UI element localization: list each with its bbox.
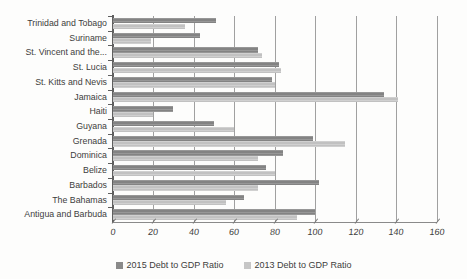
gridline-100 <box>315 16 316 222</box>
category-label: St. Lucia <box>0 60 107 75</box>
bar-2015-11 <box>113 180 320 185</box>
x-tick-label: 100 <box>297 227 332 237</box>
category-label: Belize <box>0 163 107 178</box>
bar-2013-11 <box>113 185 259 190</box>
bar-2013-8 <box>113 141 346 146</box>
gridline-140 <box>396 16 397 222</box>
category-axis-tick <box>108 45 113 46</box>
bar-2015-2 <box>113 47 259 52</box>
x-tick-label: 60 <box>216 227 251 237</box>
bar-2013-0 <box>113 24 186 29</box>
legend-swatch-icon <box>244 262 251 269</box>
bar-2013-1 <box>113 38 151 43</box>
category-label: St. Kitts and Nevis <box>0 75 107 90</box>
category-axis-tick <box>108 148 113 149</box>
category-label: Dominica <box>0 148 107 163</box>
legend-label: 2015 Debt to GDP Ratio <box>127 260 224 270</box>
category-axis-tick <box>108 90 113 91</box>
category-label: Suriname <box>0 31 107 46</box>
bar-2013-7 <box>113 127 235 132</box>
x-tick-label: 140 <box>378 227 413 237</box>
legend-label: 2013 Debt to GDP Ratio <box>255 260 352 270</box>
category-label: The Bahamas <box>0 193 107 208</box>
bar-2015-9 <box>113 150 283 155</box>
legend-swatch-icon <box>116 262 123 269</box>
gridline-120 <box>356 16 357 222</box>
x-tick-label: 40 <box>176 227 211 237</box>
legend: 2015 Debt to GDP Ratio2013 Debt to GDP R… <box>0 258 467 272</box>
category-axis-tick <box>108 16 113 17</box>
x-tick-label: 80 <box>257 227 292 237</box>
bar-2015-0 <box>113 18 216 23</box>
category-label: Antigua and Barbuda <box>0 207 107 222</box>
bar-2015-6 <box>113 106 174 111</box>
category-label: Barbados <box>0 178 107 193</box>
bar-2013-12 <box>113 200 226 205</box>
category-label: Guyana <box>0 119 107 134</box>
bar-2015-5 <box>113 92 384 97</box>
bar-2015-10 <box>113 165 267 170</box>
legend-item-2013: 2013 Debt to GDP Ratio <box>244 260 352 270</box>
bar-2013-6 <box>113 112 154 117</box>
plot-area <box>113 16 437 223</box>
x-tick-label: 160 <box>419 227 454 237</box>
category-label: St. Vincent and the... <box>0 45 107 60</box>
bar-2015-8 <box>113 136 313 141</box>
x-tick-label: 120 <box>338 227 373 237</box>
bar-2015-13 <box>113 209 316 214</box>
gridline-80 <box>275 16 276 222</box>
x-tick-label: 0 <box>95 227 130 237</box>
gridline-160 <box>437 16 438 222</box>
category-axis-tick <box>108 207 113 208</box>
category-axis-tick <box>108 104 113 105</box>
category-label: Jamaica <box>0 90 107 105</box>
category-axis-labels: Trinidad and TobagoSurinameSt. Vincent a… <box>0 16 107 222</box>
category-axis-tick <box>108 31 113 32</box>
category-label: Haiti <box>0 104 107 119</box>
bar-2013-3 <box>113 68 281 73</box>
bar-2015-3 <box>113 62 279 67</box>
bar-2013-10 <box>113 171 275 176</box>
bar-2013-9 <box>113 156 259 161</box>
category-axis-tick <box>108 163 113 164</box>
bar-2015-7 <box>113 121 214 126</box>
category-axis-tick <box>108 193 113 194</box>
legend-item-2015: 2015 Debt to GDP Ratio <box>116 260 224 270</box>
bar-2015-12 <box>113 195 245 200</box>
debt-to-gdp-bar-chart: Trinidad and TobagoSurinameSt. Vincent a… <box>0 0 467 279</box>
category-axis-tick <box>108 60 113 61</box>
category-label: Grenada <box>0 134 107 149</box>
bar-2015-4 <box>113 77 273 82</box>
bar-2013-4 <box>113 82 275 87</box>
category-axis-tick <box>108 134 113 135</box>
bar-2013-13 <box>113 215 297 220</box>
category-axis-tick <box>108 119 113 120</box>
x-tick-label: 20 <box>135 227 170 237</box>
category-label: Trinidad and Tobago <box>0 16 107 31</box>
bar-2013-5 <box>113 97 399 102</box>
category-axis-tick <box>108 75 113 76</box>
bar-2013-2 <box>113 53 263 58</box>
bar-2015-1 <box>113 33 200 38</box>
category-axis-tick <box>108 178 113 179</box>
